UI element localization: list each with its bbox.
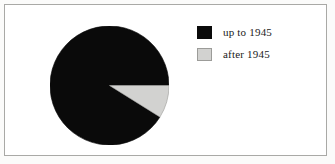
legend-label-up-to-1945: up to 1945 bbox=[223, 26, 272, 39]
gray-swatch-icon bbox=[197, 48, 212, 61]
figure-root: up to 1945 after 1945 bbox=[0, 0, 335, 164]
pie-chart-svg bbox=[50, 26, 169, 145]
pie-slices bbox=[50, 26, 169, 145]
black-swatch-icon bbox=[197, 26, 212, 39]
legend-label-after-1945: after 1945 bbox=[223, 48, 270, 61]
legend-item-after-1945: after 1945 bbox=[197, 44, 317, 64]
pie-chart bbox=[50, 26, 169, 145]
chart-legend: up to 1945 after 1945 bbox=[197, 22, 317, 66]
chart-frame: up to 1945 after 1945 bbox=[4, 4, 327, 156]
legend-item-up-to-1945: up to 1945 bbox=[197, 22, 317, 42]
